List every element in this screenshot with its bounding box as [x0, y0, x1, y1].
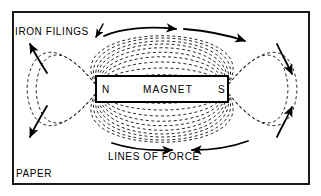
- iron-filings-label: IRON FILINGS: [15, 27, 89, 37]
- magnet-north-pole-label: N: [102, 85, 109, 95]
- magnet-title-label: MAGNET: [143, 85, 193, 95]
- paper-label: PAPER: [16, 169, 52, 179]
- magnet-south-pole-label: S: [218, 85, 225, 95]
- lines-of-force-label: LINES OF FORCE: [108, 152, 200, 162]
- magnetic-field-diagram: IRON FILINGS LINES OF FORCE PAPER N MAGN…: [0, 0, 321, 196]
